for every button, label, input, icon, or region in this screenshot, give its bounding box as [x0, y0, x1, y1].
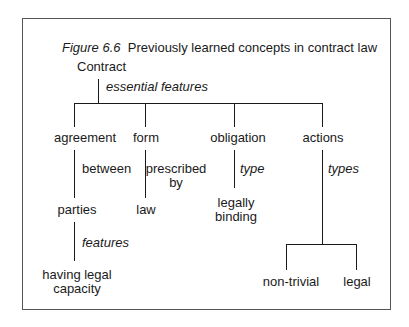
relation-between: between: [82, 162, 131, 176]
connector-parties-capacity: [74, 222, 75, 261]
connector-agreement-parties: [74, 150, 75, 198]
connector-non-trivial: [286, 244, 287, 270]
branch-bar: [74, 103, 323, 104]
node-obligation: obligation: [210, 131, 266, 145]
node-law: law: [136, 203, 156, 217]
node-legal: legal: [343, 275, 370, 289]
figure-title: Previously learned concepts in contract …: [128, 40, 377, 55]
root-connector: [98, 79, 99, 104]
connector-actions-types: [322, 150, 323, 245]
actions-sub-bar: [286, 244, 357, 245]
connector-obligation: [234, 103, 235, 127]
connector-agreement: [74, 103, 75, 127]
relation-types: types: [328, 162, 359, 176]
relation-type: type: [240, 162, 265, 176]
connector-form: [145, 103, 146, 127]
figure-caption: Figure 6.6 Previously learned concepts i…: [62, 41, 377, 55]
node-parties: parties: [57, 203, 96, 217]
connector-obligation-binding: [234, 150, 235, 188]
node-form: form: [133, 131, 159, 145]
connector-actions: [322, 103, 323, 127]
node-legally-binding: legally binding: [215, 196, 257, 224]
node-contract: Contract: [77, 60, 126, 74]
node-non-trivial: non-trivial: [263, 275, 319, 289]
connector-legal: [356, 244, 357, 270]
node-actions: actions: [302, 131, 343, 145]
relation-essential-features: essential features: [106, 80, 208, 94]
relation-features: features: [82, 236, 129, 250]
node-having-legal-capacity: having legal capacity: [42, 268, 111, 296]
node-agreement: agreement: [54, 131, 116, 145]
relation-prescribed-by: prescribed by: [146, 162, 207, 190]
figure-label: Figure 6.6: [62, 40, 121, 55]
